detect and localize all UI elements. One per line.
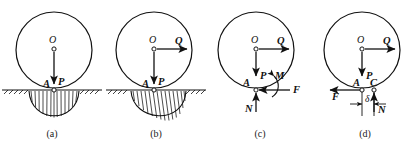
center-point-o [152,47,156,51]
label-center-o: O [149,34,156,45]
pressure-distribution-hatching [31,91,77,118]
label-moment-m: M [274,70,285,81]
label-force-q: Q [383,35,391,46]
label-contact-a: A [352,77,360,88]
label-force-f: F [331,91,339,102]
panel-b: O Q P A (b) [104,0,208,141]
panel-c-caption: (c) [208,128,312,139]
panel-c-drawing: O Q P M F N A [208,0,312,141]
rolling-resistance-figure: O P A (a) [0,0,418,141]
label-contact-a: A [42,78,50,89]
center-point-o [52,47,56,51]
label-force-p: P [260,70,267,81]
ground-hatching-right [80,90,99,94]
panel-a-caption: (a) [0,128,104,139]
panel-a: O P A (a) [0,0,104,141]
label-force-f: F [292,84,300,95]
contact-point-a [152,88,156,92]
label-offset-delta: δ [365,94,370,104]
label-force-p: P [158,76,165,87]
panel-c: O Q P M F N A (c) [208,0,312,141]
contact-point-a [52,88,56,92]
label-force-p: P [58,76,65,87]
label-center-o: O [251,34,258,45]
panel-d-caption: (d) [312,128,418,139]
panel-d-drawing: O Q P F A C δ N [312,0,418,141]
ground-hatching-right [186,90,205,94]
contact-point-a [254,88,258,92]
label-contact-a: A [242,77,250,88]
panel-a-drawing: O P A [0,0,104,141]
center-point-o [254,47,258,51]
label-offset-point-c: C [370,77,378,88]
offset-point-c [372,88,376,92]
label-center-o: O [357,34,364,45]
label-center-o: O [49,34,56,45]
ground-hatching-left [108,90,127,94]
label-force-q: Q [175,35,183,46]
center-point-o [360,47,364,51]
label-contact-a: A [141,78,149,89]
label-force-n: N [244,103,253,114]
panel-b-drawing: O Q P A [104,0,208,141]
panel-b-caption: (b) [104,128,208,139]
label-force-n: N [377,104,386,115]
panel-d: O Q P F A C δ N [312,0,418,141]
ground-hatching-left [4,90,28,94]
label-force-q: Q [277,35,285,46]
contact-point-a [360,88,364,92]
